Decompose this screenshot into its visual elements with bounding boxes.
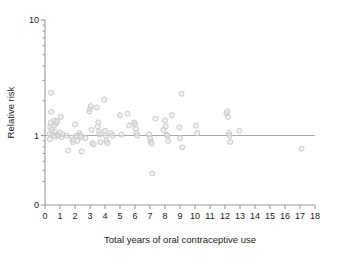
data-point [94, 105, 99, 110]
data-point [195, 131, 200, 136]
x-tick-label: 7 [147, 211, 152, 221]
data-point [97, 132, 102, 137]
data-point [66, 148, 71, 153]
data-point [225, 109, 230, 114]
x-tick-label: 16 [280, 211, 290, 221]
data-point [193, 123, 198, 128]
y-tick-label: 1 [34, 131, 39, 141]
data-point [88, 104, 93, 109]
y-axis-title: Relative risk [5, 86, 16, 138]
data-point [178, 136, 183, 141]
x-tick-label: 10 [190, 211, 200, 221]
data-point [135, 133, 140, 138]
data-point [96, 120, 101, 125]
x-axis-title: Total years of oral contraceptive use [104, 234, 256, 245]
data-point [125, 111, 130, 116]
data-point [177, 125, 182, 130]
data-point [163, 118, 168, 123]
data-point [89, 127, 94, 132]
x-tick-label: 2 [72, 211, 77, 221]
data-point [237, 128, 242, 133]
y-tick-label: 10 [29, 15, 39, 25]
x-tick-label: 4 [102, 211, 107, 221]
x-tick-label: 8 [162, 211, 167, 221]
chart-canvas: 11000123456789101112131415161718Total ye… [0, 0, 338, 257]
x-tick-label: 18 [310, 211, 320, 221]
data-point [180, 145, 185, 150]
data-point [49, 109, 54, 114]
data-point [49, 90, 54, 95]
x-tick-label: 15 [265, 211, 275, 221]
data-point [169, 113, 174, 118]
data-point [73, 122, 78, 127]
data-point [118, 113, 123, 118]
data-point [228, 139, 233, 144]
data-point [83, 136, 88, 141]
data-point [163, 124, 168, 129]
data-point [105, 141, 110, 146]
scatter-plot-figure: 11000123456789101112131415161718Total ye… [0, 0, 338, 257]
x-tick-label: 17 [295, 211, 305, 221]
data-point [226, 114, 231, 119]
data-point [110, 133, 115, 138]
x-tick-label: 12 [220, 211, 230, 221]
data-point [299, 146, 304, 151]
x-tick-label: 9 [177, 211, 182, 221]
data-point [55, 119, 60, 124]
data-point [153, 116, 158, 121]
data-point [91, 142, 96, 147]
data-points-group [47, 90, 304, 176]
x-tick-label: 11 [205, 211, 214, 221]
data-point [179, 91, 184, 96]
data-point [227, 133, 232, 138]
data-point [98, 139, 103, 144]
x-tick-label: 3 [87, 211, 92, 221]
x-tick-label: 1 [57, 211, 62, 221]
data-point [149, 141, 154, 146]
data-point [64, 133, 69, 138]
data-point [102, 97, 107, 102]
x-tick-label: 13 [235, 211, 245, 221]
data-point [166, 138, 171, 143]
data-point [79, 149, 84, 154]
x-tick-label: 5 [117, 211, 122, 221]
data-point [103, 133, 108, 138]
data-point [127, 123, 132, 128]
data-point [58, 114, 63, 119]
data-point [165, 133, 170, 138]
data-point [119, 132, 124, 137]
x-tick-label: 14 [250, 211, 260, 221]
x-tick-label: 0 [42, 211, 47, 221]
y-origin-label: 0 [34, 200, 39, 210]
data-point [103, 128, 108, 133]
x-tick-label: 6 [132, 211, 137, 221]
data-point [150, 171, 155, 176]
